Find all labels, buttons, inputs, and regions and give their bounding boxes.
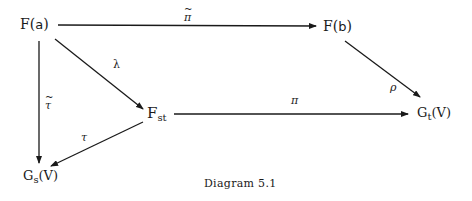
label-pi-tilde-text: π: [184, 12, 191, 23]
node-G-s-V: Gs(V): [23, 169, 58, 182]
diagram-arrows: [0, 0, 472, 201]
arrow-pi-tilde: [58, 25, 316, 26]
label-lambda: λ: [113, 59, 120, 70]
arrow-rho: [345, 41, 420, 97]
label-rho-text: ρ: [390, 81, 396, 94]
label-tau-tilde: τ: [45, 100, 51, 111]
diagram-caption: Diagram 5.1: [204, 178, 276, 189]
node-F-a-arg: a: [35, 17, 43, 32]
node-G-t-V: Gt(V): [417, 106, 451, 119]
label-tau-text: τ: [81, 131, 87, 144]
label-tau: τ: [81, 132, 87, 143]
node-F-b-base: F(: [323, 18, 338, 34]
node-F-a-base: F(: [20, 16, 35, 32]
node-F-b: F(b): [323, 19, 352, 33]
label-pi-tilde: π: [184, 12, 191, 23]
node-G-s-base: G: [23, 168, 33, 183]
label-rho: ρ: [390, 82, 396, 93]
node-F-st-sub: st: [157, 112, 166, 123]
node-G-t-rest: (V): [431, 105, 451, 120]
node-F-st: Fst: [147, 106, 167, 121]
node-F-a-close: ): [43, 16, 48, 32]
node-F-b-close: ): [346, 18, 351, 34]
label-pi: π: [291, 95, 298, 106]
arrow-tau: [51, 122, 143, 166]
node-F-a: F(a): [20, 17, 49, 31]
node-F-st-base: F: [147, 104, 157, 122]
arrow-lambda: [55, 39, 143, 109]
node-G-t-base: G: [417, 105, 427, 120]
label-lambda-text: λ: [113, 58, 120, 71]
label-pi-text: π: [291, 94, 298, 107]
label-tau-tilde-text: τ: [45, 100, 51, 111]
node-G-s-rest: (V): [39, 168, 59, 183]
